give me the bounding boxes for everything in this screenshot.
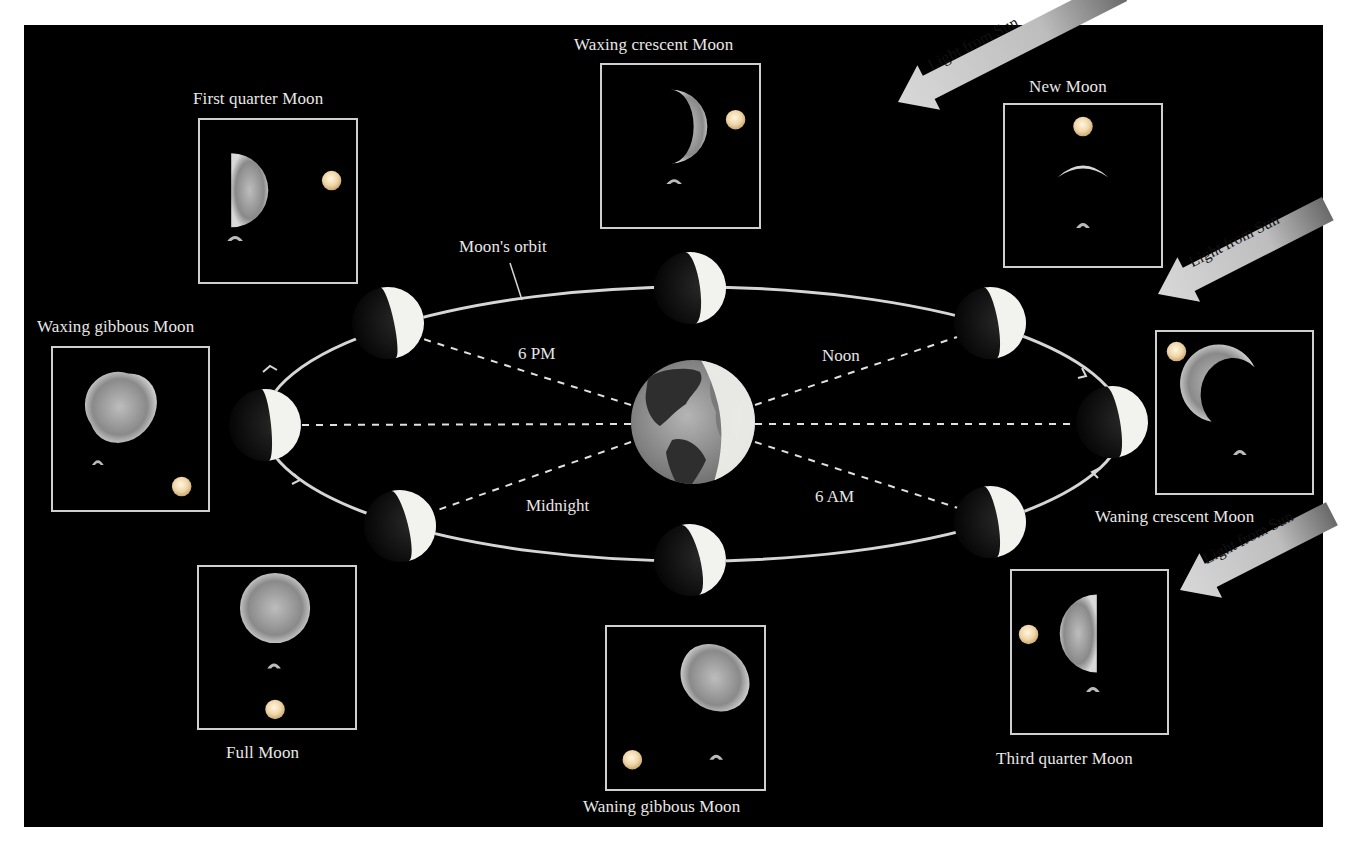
moon-full-icon [240, 573, 310, 643]
observer-icon [1233, 450, 1247, 455]
moon-waxing-gibbous-icon [74, 361, 166, 454]
sun-icon [1019, 625, 1038, 644]
moon-waxing-crescent-icon [670, 89, 707, 163]
sun-icon [623, 750, 643, 770]
phase-box-first-quarter [198, 118, 358, 284]
time-midnight: Midnight [526, 496, 589, 516]
phase-box-new [1003, 103, 1163, 268]
phase-box-third-quarter [1010, 569, 1169, 735]
time-noon: Noon [822, 346, 860, 366]
observer-icon [666, 179, 682, 184]
sun-icon [726, 110, 746, 130]
observer-icon [92, 460, 104, 465]
phase-box-waxing-crescent [600, 63, 761, 229]
phase-label-waning-gibbous: Waning gibbous Moon [583, 797, 740, 817]
observer-icon [1086, 687, 1100, 692]
phase-label-waxing-gibbous: Waxing gibbous Moon [37, 317, 194, 337]
sun-icon [172, 477, 191, 496]
observer-icon [1076, 223, 1090, 228]
moon-third-quarter-icon [1060, 594, 1097, 672]
earth [631, 358, 758, 496]
sun-icon [265, 700, 285, 720]
phase-box-waning-gibbous [605, 625, 766, 791]
phase-label-waning-crescent: Waning crescent Moon [1095, 507, 1254, 527]
moon-new-icon [1058, 166, 1109, 178]
phase-box-full [197, 565, 357, 730]
phase-label-third-quarter: Third quarter Moon [996, 749, 1133, 769]
moon-waning-gibbous-icon [670, 631, 759, 724]
time-6am: 6 AM [815, 487, 854, 507]
observer-icon [267, 664, 281, 669]
sun-icon [1167, 342, 1186, 361]
phase-label-new: New Moon [1029, 77, 1107, 97]
orbit-label-pointer [510, 263, 522, 300]
phase-label-waxing-crescent: Waxing crescent Moon [574, 35, 733, 55]
time-6pm: 6 PM [518, 344, 555, 364]
sun-icon [1073, 117, 1093, 137]
sun-icon [322, 171, 342, 191]
phase-box-waning-crescent [1155, 330, 1314, 495]
phase-box-waxing-gibbous [51, 346, 210, 512]
phase-label-full: Full Moon [226, 743, 299, 763]
moon-waning-crescent-icon [1180, 344, 1254, 421]
moon-first-quarter-icon [231, 153, 268, 227]
observer-icon [709, 755, 723, 760]
phase-label-first-quarter: First quarter Moon [193, 89, 323, 109]
orbit-label: Moon's orbit [459, 237, 547, 257]
observer-icon [227, 236, 243, 241]
